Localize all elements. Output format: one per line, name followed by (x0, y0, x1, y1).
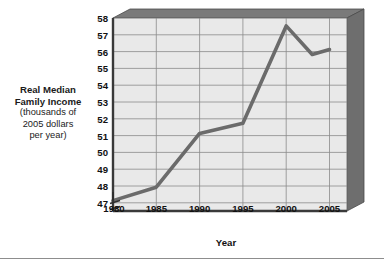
x-tick-1990: 1990 (177, 203, 223, 214)
plot-background (113, 18, 347, 211)
plot-area (0, 0, 384, 267)
x-axis-tick-labels: 1980 1985 1990 1995 2000 2005 (0, 203, 384, 219)
x-axis-title: Year (112, 237, 340, 248)
x-tick-1995: 1995 (220, 203, 266, 214)
x-tick-1980: 1980 (91, 203, 137, 214)
panel-side-bevel (347, 9, 364, 211)
chart-figure: Real Median Family Income (thousands of … (0, 0, 384, 267)
x-tick-1985: 1985 (133, 203, 179, 214)
bottom-divider (0, 258, 384, 259)
x-tick-2000: 2000 (263, 203, 309, 214)
x-tick-2005: 2005 (307, 203, 353, 214)
panel-top-bevel (113, 9, 364, 18)
